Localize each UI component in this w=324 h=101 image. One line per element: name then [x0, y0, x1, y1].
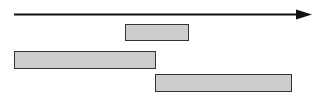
axis-arrowhead-icon: [296, 10, 312, 20]
interval-bar-3: [155, 74, 292, 92]
interval-timeline-diagram: [0, 0, 324, 101]
interval-bar-1: [125, 24, 189, 41]
interval-bar-2: [14, 51, 156, 69]
